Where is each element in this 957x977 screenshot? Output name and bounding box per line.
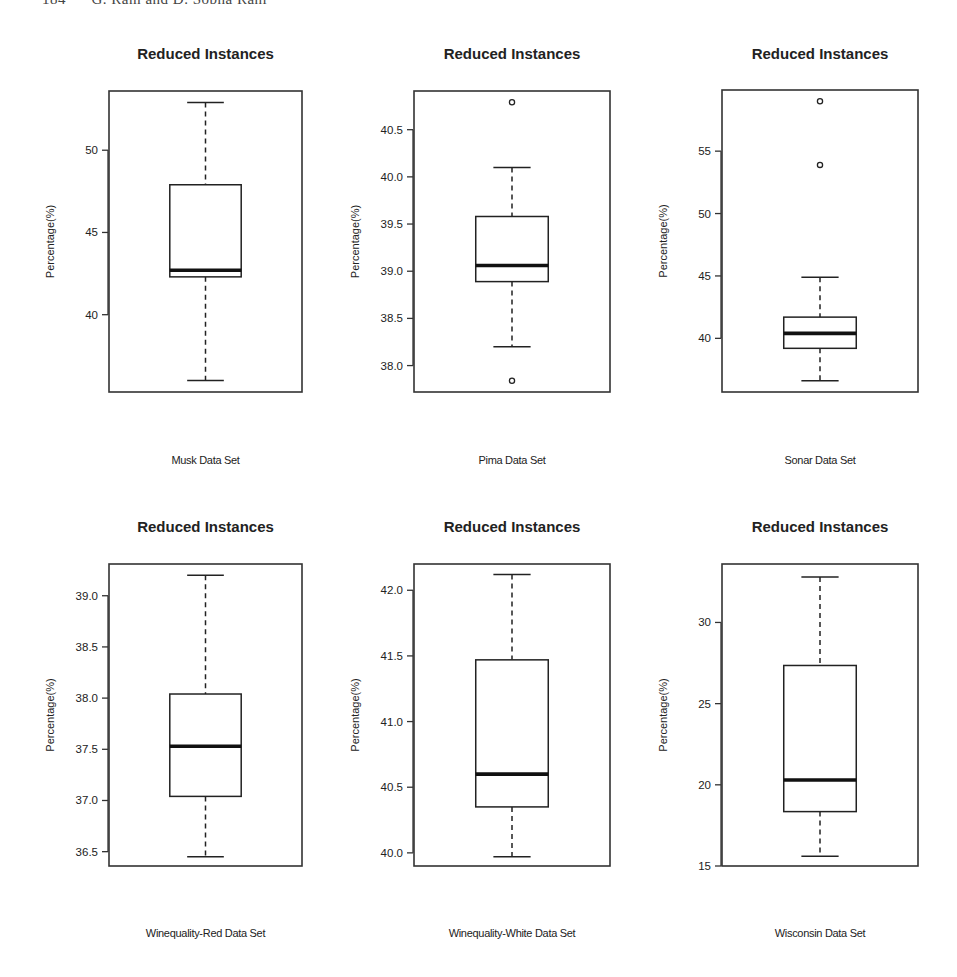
outlier-point <box>817 162 822 167</box>
iqr-box <box>784 665 857 811</box>
chart-title: Reduced Instances <box>86 45 326 62</box>
y-tick-label: 36.5 <box>76 846 98 858</box>
y-tick-label: 20 <box>698 779 711 791</box>
x-axis-label: Sonar Data Set <box>700 454 940 466</box>
page-header: 184 G. Ram and D. Sobha Rani <box>42 0 267 8</box>
x-axis-label: Winequality-Red Data Set <box>86 927 326 939</box>
y-tick-label: 38.0 <box>76 692 98 704</box>
box-glyph <box>784 99 857 381</box>
y-tick-label: 40 <box>85 309 98 321</box>
y-tick-label: 30 <box>698 616 711 628</box>
iqr-box <box>476 216 549 281</box>
y-tick-label: 39.0 <box>76 590 98 602</box>
boxplot-svg: 40.040.541.041.542.0Percentage(%) <box>339 559 615 871</box>
y-tick-label: 42.0 <box>381 584 403 596</box>
chart-title: Reduced Instances <box>700 45 940 62</box>
box-glyph <box>476 100 549 384</box>
x-axis-label: Winequality-White Data Set <box>392 927 632 939</box>
y-tick-label: 41.5 <box>381 650 403 662</box>
y-tick-label: 40.0 <box>381 847 403 859</box>
y-tick-label: 25 <box>698 698 711 710</box>
boxplot-svg: 15202530Percentage(%) <box>647 559 923 871</box>
x-axis-label: Wisconsin Data Set <box>700 927 940 939</box>
y-tick-label: 40 <box>698 332 711 344</box>
box-glyph <box>170 575 241 857</box>
boxplot-svg: 36.537.037.538.038.539.0Percentage(%) <box>34 559 307 871</box>
y-tick-label: 50 <box>85 144 98 156</box>
outlier-point <box>509 378 514 383</box>
chart-title: Reduced Instances <box>700 518 940 535</box>
y-tick-label: 37.0 <box>76 794 98 806</box>
y-axis-label: Percentage(%) <box>657 204 669 277</box>
y-tick-label: 40.5 <box>381 781 403 793</box>
y-axis-label: Percentage(%) <box>657 678 669 751</box>
outlier-point <box>817 99 822 104</box>
y-tick-label: 38.0 <box>381 360 403 372</box>
y-tick-label: 39.0 <box>381 265 403 277</box>
chart-title: Reduced Instances <box>86 518 326 535</box>
chart-title: Reduced Instances <box>392 518 632 535</box>
y-tick-label: 41.0 <box>381 716 403 728</box>
y-tick-label: 15 <box>698 860 711 872</box>
y-tick-label: 40.5 <box>381 124 403 136</box>
iqr-box <box>170 185 241 277</box>
x-axis-label: Pima Data Set <box>392 454 632 466</box>
x-axis-label: Musk Data Set <box>86 454 326 466</box>
iqr-box <box>476 660 549 807</box>
y-tick-label: 38.5 <box>76 641 98 653</box>
box-glyph <box>476 575 549 857</box>
y-axis-label: Percentage(%) <box>349 205 361 278</box>
box-glyph <box>170 103 241 381</box>
outlier-point <box>509 100 514 105</box>
y-axis-label: Percentage(%) <box>44 205 56 278</box>
box-glyph <box>784 577 857 856</box>
y-axis-label: Percentage(%) <box>44 678 56 751</box>
y-tick-label: 38.5 <box>381 312 403 324</box>
boxplot-svg: 38.038.539.039.540.040.5Percentage(%) <box>339 86 615 397</box>
y-tick-label: 45 <box>698 270 711 282</box>
boxplot-svg: 404550Percentage(%) <box>34 86 307 397</box>
chart-title: Reduced Instances <box>392 45 632 62</box>
y-tick-label: 40.0 <box>381 171 403 183</box>
y-tick-label: 55 <box>698 145 711 157</box>
y-axis-label: Percentage(%) <box>349 678 361 751</box>
y-tick-label: 45 <box>85 226 98 238</box>
y-tick-label: 37.5 <box>76 743 98 755</box>
y-tick-label: 50 <box>698 208 711 220</box>
y-tick-label: 39.5 <box>381 218 403 230</box>
boxplot-svg: 40455055Percentage(%) <box>647 85 923 397</box>
